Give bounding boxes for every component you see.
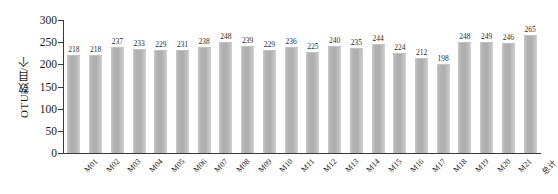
bar-value-label: 229 — [264, 40, 275, 49]
bar-slot[interactable]: 246 — [502, 20, 515, 153]
bar-value-label: 212 — [416, 48, 427, 57]
bar-value-label: 231 — [177, 40, 188, 49]
bar[interactable] — [241, 46, 254, 153]
bar[interactable] — [372, 44, 385, 153]
bar-slot[interactable]: 218 — [89, 20, 102, 153]
bar[interactable] — [502, 43, 515, 153]
x-tick-label: M20 — [495, 157, 512, 174]
x-tick-label: M18 — [452, 157, 469, 174]
x-tick-label: M11 — [299, 157, 316, 174]
x-tick-label: M09 — [256, 157, 273, 174]
bar-slot[interactable]: 236 — [285, 20, 298, 153]
bar[interactable] — [524, 35, 537, 153]
bar-value-label: 240 — [329, 36, 340, 45]
bar[interactable] — [415, 58, 428, 153]
x-tick-label: M10 — [278, 157, 295, 174]
bar-value-label: 244 — [372, 34, 383, 43]
x-axis-labels: M01M02M03M04M05M06M07M08M09M10M11M12M13M… — [63, 154, 541, 194]
bar-value-label: 233 — [133, 39, 144, 48]
bar[interactable] — [437, 64, 450, 153]
bar[interactable] — [111, 47, 124, 153]
x-tick-label: M15 — [386, 157, 403, 174]
bar-value-label: 218 — [68, 45, 79, 54]
bar-slot[interactable]: 248 — [458, 20, 471, 153]
bar[interactable] — [306, 52, 319, 153]
bar-slot[interactable]: 231 — [176, 20, 189, 153]
bar-value-label: 229 — [155, 40, 166, 49]
x-tick-label: M14 — [365, 157, 382, 174]
bar-value-label: 236 — [286, 37, 297, 46]
x-tick-label: M03 — [126, 157, 143, 174]
plot-area: 050100150200250300 218218237233229231238… — [63, 20, 541, 153]
bar-value-label: 238 — [199, 37, 210, 46]
bar[interactable] — [328, 46, 341, 153]
bar[interactable] — [285, 47, 298, 153]
bar-slot[interactable]: 239 — [241, 20, 254, 153]
bar-slot[interactable]: 265 — [524, 20, 537, 153]
bar[interactable] — [263, 50, 276, 153]
bar-slot[interactable]: 229 — [263, 20, 276, 153]
bar[interactable] — [458, 42, 471, 153]
bar-value-label: 198 — [438, 54, 449, 63]
bar-slot[interactable]: 240 — [328, 20, 341, 153]
bar-slot[interactable]: 248 — [219, 20, 232, 153]
x-tick-label: M06 — [191, 157, 208, 174]
x-tick-label: M07 — [213, 157, 230, 174]
bar-slot[interactable]: 198 — [437, 20, 450, 153]
x-tick-label: M02 — [104, 157, 121, 174]
bar-value-label: 246 — [503, 33, 514, 42]
bar-value-label: 265 — [525, 25, 536, 34]
x-tick-label: M13 — [343, 157, 360, 174]
bar-slot[interactable]: 238 — [198, 20, 211, 153]
bar-value-label: 239 — [242, 36, 253, 45]
bar[interactable] — [133, 49, 146, 153]
bar-series: 2182182372332292312382482392292362252402… — [63, 20, 541, 153]
bar[interactable] — [393, 53, 406, 153]
bar[interactable] — [480, 42, 493, 153]
x-tick-label: M12 — [321, 157, 338, 174]
x-tick-label: M17 — [430, 157, 447, 174]
bar-value-label: 248 — [220, 32, 231, 41]
bar-value-label: 248 — [459, 32, 470, 41]
y-tick-label: 100 — [40, 103, 57, 115]
y-tick-label: 250 — [40, 36, 57, 48]
x-tick-label: M05 — [169, 157, 186, 174]
bar-slot[interactable]: 235 — [350, 20, 363, 153]
bar-value-label: 225 — [307, 42, 318, 51]
y-axis-title: OTU数目/个 — [14, 20, 34, 153]
bar-slot[interactable]: 237 — [111, 20, 124, 153]
bar-slot[interactable]: 212 — [415, 20, 428, 153]
bar[interactable] — [67, 55, 80, 153]
bar-slot[interactable]: 249 — [480, 20, 493, 153]
x-tick-label: M04 — [147, 157, 164, 174]
bar-value-label: 237 — [112, 37, 123, 46]
bar[interactable] — [198, 47, 211, 154]
x-tick-label: M21 — [517, 157, 534, 174]
y-tick-label: 300 — [40, 14, 57, 26]
y-tick-label: 150 — [40, 81, 57, 93]
y-tick-label: 200 — [40, 58, 57, 70]
bar-value-label: 218 — [90, 45, 101, 54]
x-tick-label: M08 — [234, 157, 251, 174]
bar-value-label: 249 — [481, 32, 492, 41]
x-tick-label: M01 — [82, 157, 99, 174]
bar[interactable] — [219, 42, 232, 153]
bar-slot[interactable]: 224 — [393, 20, 406, 153]
x-tick-label: M19 — [473, 157, 490, 174]
bar[interactable] — [154, 50, 167, 153]
bar-slot[interactable]: 218 — [67, 20, 80, 153]
bar[interactable] — [89, 55, 102, 153]
y-tick-label: 0 — [51, 147, 57, 159]
bar[interactable] — [176, 50, 189, 153]
bar-slot[interactable]: 225 — [306, 20, 319, 153]
x-tick-label: 总计 — [539, 157, 558, 176]
bar-slot[interactable]: 229 — [154, 20, 167, 153]
bar-slot[interactable]: 244 — [372, 20, 385, 153]
bar-value-label: 224 — [394, 43, 405, 52]
bar-slot[interactable]: 233 — [133, 20, 146, 153]
bar[interactable] — [350, 48, 363, 153]
bar-value-label: 235 — [351, 38, 362, 47]
x-tick-label: M16 — [408, 157, 425, 174]
y-tick-label: 50 — [46, 125, 58, 137]
